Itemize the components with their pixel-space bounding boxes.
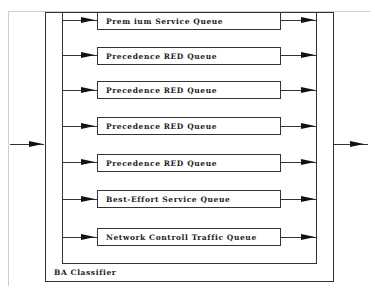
queue-out-arrow-icon [301, 17, 315, 23]
queue-box-precedence-red-2: Precedence RED Queue [97, 81, 281, 99]
queue-out-arrow-icon [301, 123, 315, 129]
queue-in-arrow-icon [81, 87, 95, 93]
queue-label: Best-Effort Service Queue [106, 195, 230, 204]
queue-box-best-effort: Best-Effort Service Queue [97, 190, 281, 208]
queue-in-arrow-icon [81, 52, 95, 58]
queue-out-arrow-icon [301, 52, 315, 58]
outer-frame-left [8, 11, 9, 286]
queue-in-arrow-icon [81, 17, 95, 23]
queue-out-arrow-icon [301, 234, 315, 240]
queue-box-premium: Prem ium Service Queue [97, 12, 281, 30]
queue-in-arrow-icon [81, 234, 95, 240]
ba-classifier-label: BA Classifier [54, 268, 116, 277]
queue-label: Precedence RED Queue [106, 122, 217, 131]
queue-label: Precedence RED Queue [106, 52, 217, 61]
output-arrow-icon [350, 141, 364, 147]
input-arrow-icon [29, 141, 43, 147]
queue-out-arrow-icon [301, 196, 315, 202]
queue-label: Prem ium Service Queue [106, 17, 223, 26]
queue-label: Network Controll Traffic Queue [106, 233, 257, 242]
queue-out-arrow-icon [301, 159, 315, 165]
queue-in-arrow-icon [81, 196, 95, 202]
queue-box-network-control: Network Controll Traffic Queue [97, 228, 281, 246]
queue-box-precedence-red-1: Precedence RED Queue [97, 47, 281, 65]
queue-out-arrow-icon [301, 87, 315, 93]
queue-label: Precedence RED Queue [106, 159, 217, 168]
queue-box-precedence-red-3: Precedence RED Queue [97, 117, 281, 135]
queue-box-precedence-red-4: Precedence RED Queue [97, 154, 281, 172]
queue-in-arrow-icon [81, 159, 95, 165]
queue-in-arrow-icon [81, 123, 95, 129]
queue-label: Precedence RED Queue [106, 86, 217, 95]
